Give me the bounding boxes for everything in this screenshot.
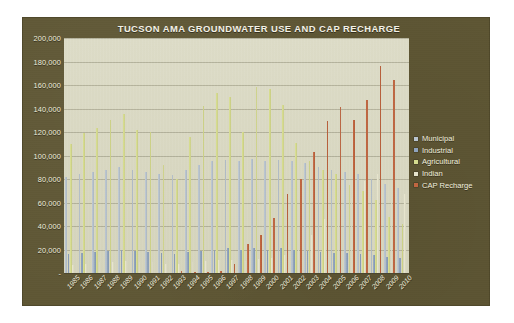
bar-agricultural [123, 114, 125, 273]
bar-indian [165, 264, 167, 273]
y-axis-tick-label: 160,000 [34, 81, 61, 90]
bar-cap-recharge [234, 264, 236, 273]
bar-agricultural [110, 120, 112, 273]
bar-group [183, 38, 196, 273]
bar-agricultural [136, 130, 138, 273]
legend-item-label: Industrial [422, 146, 453, 155]
bar-indian [152, 262, 154, 273]
bar-indian [99, 262, 101, 273]
legend-swatch-icon [414, 137, 418, 141]
y-axis-tick-label: 100,000 [34, 151, 61, 160]
x-axis-tick-label: 1989 [119, 274, 135, 290]
bar-group [210, 38, 223, 273]
plot-area [64, 38, 409, 273]
bar-cap-recharge [287, 194, 289, 273]
bar-agricultural [96, 128, 98, 273]
bar-group [316, 38, 329, 273]
bar-group [64, 38, 77, 273]
x-axis-tick-label: 1996 [212, 274, 228, 290]
x-axis-tick-label: 1986 [79, 274, 95, 290]
legend-item-label: Municipal [422, 134, 454, 143]
bar-group [396, 38, 409, 273]
legend-item-label: CAP Recharge [422, 181, 473, 190]
bar-indian [125, 261, 127, 273]
bar-cap-recharge [260, 235, 262, 273]
bar-indian [404, 194, 406, 273]
y-axis: 200,000180,000160,000140,000120,000100,0… [22, 38, 64, 273]
x-axis-tick-label: 1990 [132, 274, 148, 290]
bar-agricultural [83, 133, 85, 273]
bar-group [343, 38, 356, 273]
bar-agricultural [229, 97, 231, 273]
y-axis-tick-label: 20,000 [38, 245, 61, 254]
bar-indian [72, 265, 74, 273]
bar-agricultural [282, 105, 284, 273]
bar-group [276, 38, 289, 273]
x-axis-tick-label: 2008 [371, 274, 387, 290]
legend-item-label: Indian [422, 169, 443, 178]
x-axis-tick-label: 1999 [251, 274, 267, 290]
x-axis-tick-label: 2000 [265, 274, 281, 290]
bar-agricultural [189, 137, 191, 273]
bar-group [197, 38, 210, 273]
legend-swatch-icon [414, 148, 418, 152]
bar-group [303, 38, 316, 273]
x-axis-tick-label: 2003 [304, 274, 320, 290]
chart-legend: MunicipalIndustrialAgriculturalIndianCAP… [414, 133, 488, 191]
y-axis-tick-label: 140,000 [34, 104, 61, 113]
bar-group [91, 38, 104, 273]
chart-title: TUCSON AMA GROUNDWATER USE AND CAP RECHA… [86, 23, 432, 34]
legend-item-agricultural[interactable]: Agricultural [414, 156, 488, 168]
bar-cap-recharge [247, 244, 249, 273]
x-axis: 1985198619871988198919901991199219931994… [64, 274, 409, 306]
x-axis-tick-label: 2002 [291, 274, 307, 290]
bar-cap-recharge [273, 218, 275, 273]
bar-group [117, 38, 130, 273]
x-axis-tick-label: 2004 [318, 274, 334, 290]
bar-indian [85, 264, 87, 273]
bar-cap-recharge [327, 121, 329, 273]
bar-agricultural [176, 179, 178, 273]
x-axis-tick-label: 1987 [92, 274, 108, 290]
bar-group [130, 38, 143, 273]
legend-item-label: Agricultural [422, 157, 460, 166]
bar-cap-recharge [313, 152, 315, 273]
bar-group [77, 38, 90, 273]
bar-agricultural [150, 132, 152, 273]
bar-group [356, 38, 369, 273]
legend-item-municipal[interactable]: Municipal [414, 133, 488, 145]
bar-group [170, 38, 183, 273]
x-axis-tick-label: 2006 [344, 274, 360, 290]
legend-swatch-icon [414, 160, 418, 164]
bar-cap-recharge [380, 66, 382, 273]
bar-group [369, 38, 382, 273]
bar-agricultural [256, 87, 258, 273]
x-axis-tick-label: 2010 [397, 274, 413, 290]
legend-item-cap-recharge[interactable]: CAP Recharge [414, 179, 488, 191]
bar-cap-recharge [340, 107, 342, 273]
x-axis-tick-label: 1992 [158, 274, 174, 290]
bar-group [157, 38, 170, 273]
bar-group [104, 38, 117, 273]
bar-agricultural [70, 144, 72, 273]
y-axis-tick-label: 200,000 [34, 34, 61, 43]
bar-cap-recharge [353, 120, 355, 273]
bar-agricultural [216, 93, 218, 273]
x-axis-tick-label: 1994 [185, 274, 201, 290]
x-axis-tick-label: 1995 [198, 274, 214, 290]
legend-item-industrial[interactable]: Industrial [414, 145, 488, 157]
bar-cap-recharge [300, 179, 302, 273]
x-axis-tick-label: 1988 [105, 274, 121, 290]
y-axis-tick-label: 80,000 [38, 175, 61, 184]
bar-agricultural [242, 132, 244, 273]
x-axis-tick-label: 2001 [278, 274, 294, 290]
y-axis-tick-label: 40,000 [38, 222, 61, 231]
legend-item-indian[interactable]: Indian [414, 168, 488, 180]
bar-indian [139, 262, 141, 273]
bar-indian [112, 262, 114, 273]
y-axis-tick-label: 180,000 [34, 57, 61, 66]
x-axis-tick-label: 1993 [172, 274, 188, 290]
x-axis-tick-label: 2005 [331, 274, 347, 290]
x-axis-tick-label: 2007 [358, 274, 374, 290]
x-axis-tick-label: 2009 [384, 274, 400, 290]
